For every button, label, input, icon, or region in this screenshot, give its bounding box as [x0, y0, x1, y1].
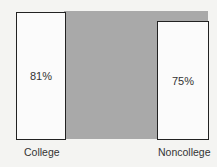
- bar-noncollege: 75%: [157, 21, 209, 140]
- bar-value-label: 75%: [172, 75, 194, 87]
- bar-value-label: 81%: [30, 70, 52, 82]
- bar-college: 81%: [16, 12, 66, 140]
- category-label: Noncollege: [158, 146, 211, 158]
- category-label: College: [24, 146, 60, 158]
